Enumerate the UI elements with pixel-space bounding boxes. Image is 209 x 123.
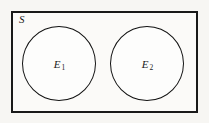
event-label-e2: E2 [111,58,183,69]
sample-space-label: S [19,14,25,25]
event-label-e1: E1 [23,58,95,69]
event-label-e2-subscript: 2 [149,63,153,72]
event-label-e1-subscript: 1 [61,63,65,72]
event-label-e2-base: E [142,57,149,69]
event-circle-e1: E1 [22,26,96,101]
venn-diagram-figure: S E1 E2 [0,0,209,123]
event-label-e1-base: E [54,57,61,69]
event-circle-e2: E2 [110,26,184,101]
